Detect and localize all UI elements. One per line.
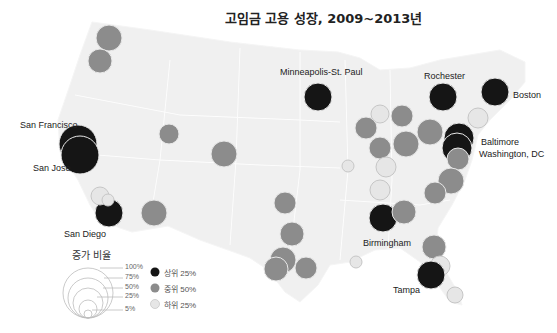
legend-size-75: 75% [125, 273, 139, 280]
legend-size-50: 50% [125, 283, 139, 290]
city-bubble [355, 117, 377, 139]
label-washington-dc: Washington, DC [479, 149, 544, 159]
city-bubble [447, 148, 469, 170]
label-san-francisco: San Francisco [20, 120, 78, 130]
legend-size-25: 25% [125, 292, 139, 299]
city-bubble [424, 182, 446, 204]
label-minneapolis: Minneapolis-St. Paul [280, 67, 363, 77]
size-legend [63, 268, 123, 318]
city-bubble [295, 257, 317, 279]
city-bubble [264, 257, 288, 281]
city-bubble [447, 287, 463, 303]
city-bubble [280, 222, 304, 246]
tier-legend [151, 268, 160, 309]
city-bubble [392, 200, 416, 224]
label-birmingham: Birmingham [363, 238, 411, 248]
label-boston: Boston [513, 90, 541, 100]
city-bubble [422, 235, 446, 259]
city-bubble [417, 119, 443, 145]
city-bubble [468, 108, 488, 128]
city-bubble [102, 194, 114, 206]
label-tampa: Tampa [393, 285, 420, 295]
label-san-diego: San Diego [64, 229, 106, 239]
city-bubble [211, 141, 237, 167]
us-map [0, 0, 557, 333]
city-bubble [274, 192, 296, 214]
label-san-jose: San Jose [33, 163, 71, 173]
city-bubble [350, 256, 362, 268]
legend-tier-bottom: 하위 25% [164, 299, 196, 310]
city-bubble [96, 25, 122, 51]
city-bubble [141, 200, 167, 226]
city-bubble [370, 180, 390, 200]
legend-tier-middle: 중위 50% [164, 283, 196, 294]
city-bubble [342, 160, 354, 172]
city-bubble [304, 83, 332, 111]
label-baltimore: Baltimore [481, 137, 519, 147]
legend-title: 증가 비율 [72, 247, 111, 262]
city-bubble [369, 137, 391, 159]
legend-tier-top: 상위 25% [164, 267, 196, 278]
city-bubble [88, 49, 112, 73]
city-bubble [376, 157, 396, 177]
city-bubble [417, 261, 445, 289]
city-bubble [481, 78, 509, 106]
city-bubble [391, 105, 413, 127]
legend-size-5: 5% [125, 305, 135, 312]
label-rochester: Rochester [424, 71, 465, 81]
city-bubble [429, 83, 457, 111]
city-bubble [159, 124, 179, 144]
legend-size-100: 100% [125, 263, 143, 270]
city-bubble [393, 131, 419, 157]
